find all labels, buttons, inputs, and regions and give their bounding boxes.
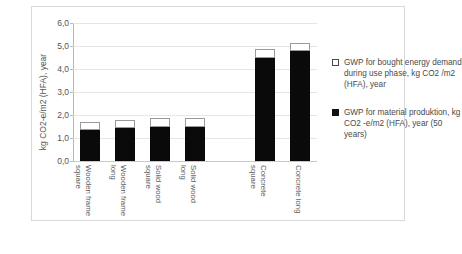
y-axis-tick-label: 2,0	[57, 110, 69, 120]
bar-segment-material-production	[290, 51, 310, 161]
bar-column	[80, 122, 100, 161]
y-axis-tick-mark	[70, 92, 73, 93]
bar-segment-energy-demand	[150, 118, 170, 126]
y-axis-tick-mark	[70, 23, 73, 24]
gridline	[73, 69, 317, 70]
bar-segment-material-production	[80, 130, 100, 161]
x-axis-category-label: Wooden framelong	[114, 165, 136, 225]
category-label-line: square	[248, 165, 258, 225]
legend-label-energy-demand: GWP for bought energy demand during use …	[344, 58, 462, 89]
gridline	[73, 92, 317, 93]
category-label-line: Wooden frame	[83, 165, 93, 225]
gridline	[73, 161, 317, 162]
open-square-marker-icon	[332, 59, 339, 66]
y-axis-tick-mark	[70, 138, 73, 139]
y-axis-tick-mark	[70, 115, 73, 116]
category-label-line: Wooden frame	[118, 165, 128, 225]
category-label-line: long	[178, 165, 188, 225]
bar-segment-energy-demand	[290, 43, 310, 51]
legend-label-material-production: GWP for material produktion, kg CO2 -e/m…	[344, 108, 460, 139]
chart-container: kg CO2-e/m2 (HFA), year 6,05,04,03,02,01…	[31, 6, 405, 221]
y-axis-tick-mark	[70, 46, 73, 47]
chart-legend: GWP for bought energy demand during use …	[332, 57, 462, 156]
gridline	[73, 23, 317, 24]
y-axis-tick-label: 4,0	[57, 64, 69, 74]
y-axis-tick-label: 3,0	[57, 87, 69, 97]
gridline	[73, 46, 317, 47]
bar-column	[115, 120, 135, 161]
x-axis-category-label: Concrete long	[289, 165, 311, 225]
category-label-line: square	[73, 165, 83, 225]
x-axis-category-label: Solid woodsquare	[149, 165, 171, 225]
category-label-line: Solid wood	[153, 165, 163, 225]
gridline	[73, 115, 317, 116]
x-axis-category-label: Wooden framesquare	[79, 165, 101, 225]
plot-area: 6,05,04,03,02,01,00,0	[73, 23, 317, 161]
category-label-line: Concrete	[258, 165, 268, 225]
bar-column	[150, 118, 170, 161]
y-axis-tick-label: 6,0	[57, 18, 69, 28]
x-axis-category-label: Concretesquare	[254, 165, 276, 225]
legend-entry-energy-demand: GWP for bought energy demand during use …	[332, 57, 462, 91]
category-label-line: Solid wood	[188, 165, 198, 225]
bar-segment-material-production	[255, 58, 275, 162]
y-axis-tick-label: 1,0	[57, 133, 69, 143]
bar-segment-material-production	[115, 128, 135, 161]
category-label-line: Concrete long	[293, 165, 303, 225]
y-axis-tick-label: 0,0	[57, 156, 69, 166]
bar-column	[290, 43, 310, 161]
y-axis-title: kg CO2-e/m2 (HFA), year	[32, 27, 54, 177]
legend-entry-material-production: GWP for material produktion, kg CO2 -e/m…	[332, 107, 462, 141]
bar-segment-material-production	[185, 127, 205, 162]
x-axis-category-label: Solid woodlong	[184, 165, 206, 225]
bar-segment-energy-demand	[115, 120, 135, 128]
category-label-line: square	[143, 165, 153, 225]
category-label-line: long	[108, 165, 118, 225]
bar-segment-energy-demand	[80, 122, 100, 130]
bar-segment-material-production	[150, 127, 170, 162]
y-axis-tick-mark	[70, 69, 73, 70]
y-axis-title-text: kg CO2-e/m2 (HFA), year	[38, 54, 48, 150]
bar-segment-energy-demand	[185, 118, 205, 126]
y-axis-tick-label: 5,0	[57, 41, 69, 51]
bar-column	[255, 49, 275, 161]
bar-segment-energy-demand	[255, 49, 275, 57]
filled-square-marker-icon	[332, 109, 339, 116]
y-axis-tick-mark	[70, 161, 73, 162]
bar-column	[185, 118, 205, 161]
